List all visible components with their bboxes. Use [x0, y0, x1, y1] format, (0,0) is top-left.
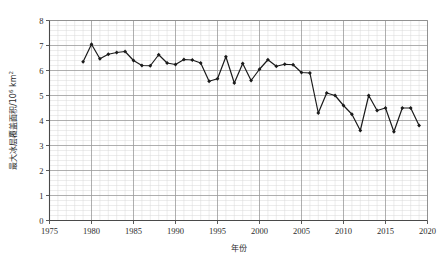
chart-container: 1975198019851990199520002005201020152020…	[0, 0, 446, 271]
y-tick-label: 6	[39, 66, 43, 76]
y-axis-title-text: 最大冰层覆盖面积/106 km2	[8, 71, 18, 170]
x-tick-label: 1980	[83, 226, 100, 236]
y-tick-label: 2	[39, 166, 43, 176]
y-tick-label: 8	[39, 16, 43, 26]
x-tick-label: 1995	[209, 226, 226, 236]
x-tick-label: 2015	[377, 226, 394, 236]
x-tick-label: 1985	[125, 226, 142, 236]
y-tick-label: 3	[39, 141, 43, 151]
y-tick-label: 7	[39, 41, 43, 51]
y-tick-label: 1	[39, 191, 43, 201]
x-tick-label: 2000	[251, 226, 268, 236]
x-tick-label: 1990	[167, 226, 184, 236]
ice-cover-line-chart: 1975198019851990199520002005201020152020…	[0, 0, 446, 271]
y-tick-label: 5	[39, 91, 43, 101]
x-tick-label: 2010	[335, 226, 352, 236]
x-tick-label: 1975	[41, 226, 58, 236]
y-axis-title: 最大冰层覆盖面积/106 km2	[8, 71, 18, 170]
x-tick-label: 2020	[419, 226, 436, 236]
x-axis-title-text: 年份	[231, 243, 247, 253]
x-tick-label: 2005	[293, 226, 310, 236]
x-axis-title: 年份	[231, 243, 247, 253]
y-tick-label: 0	[39, 216, 43, 226]
